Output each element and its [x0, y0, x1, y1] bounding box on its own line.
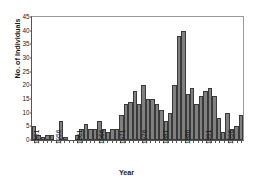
x-axis-tick-mark: [43, 140, 44, 143]
y-axis-tick-mark: [30, 126, 33, 127]
x-axis-tick-mark: [51, 140, 52, 143]
x-axis-tick-mark: [168, 140, 169, 143]
y-axis-tick-mark: [30, 140, 33, 141]
plot-area: 0510152025303540451951195619611966197119…: [31, 16, 244, 141]
x-axis-tick-mark: [237, 140, 238, 143]
x-axis-tick-mark: [86, 140, 87, 143]
x-axis-tick-mark: [90, 140, 91, 143]
y-axis-tick-label: 35: [22, 41, 29, 47]
x-axis-tick-mark: [241, 140, 242, 143]
x-axis-tick-mark: [146, 140, 147, 143]
x-axis-tick-mark: [69, 140, 70, 143]
y-axis-tick-label: 25: [22, 68, 29, 74]
x-axis-tick-mark: [112, 140, 113, 143]
bar: [239, 115, 243, 140]
x-axis-tick-mark: [82, 140, 83, 143]
x-axis-tick-mark: [219, 140, 220, 143]
y-axis-title: No. of Individuals: [13, 4, 22, 94]
x-axis-tick-mark: [198, 140, 199, 143]
x-axis-tick-mark: [73, 140, 74, 143]
y-axis-tick-mark: [30, 71, 33, 72]
x-axis-tick-mark: [181, 140, 182, 143]
y-axis-tick-mark: [30, 112, 33, 113]
x-axis-tick-mark: [47, 140, 48, 143]
y-axis-tick-label: 30: [22, 55, 29, 61]
y-axis-tick-mark: [30, 30, 33, 31]
x-axis-tick-label: 1991: [206, 130, 212, 144]
x-axis-tick-label: 1961: [77, 130, 83, 144]
x-axis-tick-mark: [94, 140, 95, 143]
x-axis-tick-label: 1966: [99, 130, 105, 144]
x-axis-tick-mark: [60, 140, 61, 143]
x-axis-tick-mark: [202, 140, 203, 143]
y-axis-tick-mark: [30, 17, 33, 18]
x-axis-tick-label: 1951: [34, 130, 40, 144]
x-axis-tick-mark: [150, 140, 151, 143]
x-axis-tick-mark: [159, 140, 160, 143]
x-axis-tick-label: 1976: [142, 130, 148, 144]
x-axis-tick-mark: [64, 140, 65, 143]
x-axis-tick-mark: [133, 140, 134, 143]
x-axis-tick-mark: [211, 140, 212, 143]
x-axis-tick-mark: [116, 140, 117, 143]
x-axis-tick-mark: [38, 140, 39, 143]
x-axis-tick-label: 1986: [185, 130, 191, 144]
x-axis-tick-mark: [172, 140, 173, 143]
x-axis-tick-mark: [193, 140, 194, 143]
x-axis-tick-label: 1956: [56, 130, 62, 144]
x-axis-tick-mark: [138, 140, 139, 143]
x-axis-tick-mark: [155, 140, 156, 143]
x-axis-tick-mark: [107, 140, 108, 143]
histogram-figure: No. of Individuals 051015202530354045195…: [0, 0, 253, 182]
x-axis-title: Year: [0, 168, 253, 177]
x-axis-tick-label: 1981: [163, 130, 169, 144]
x-axis-tick-mark: [215, 140, 216, 143]
y-axis-tick-label: 10: [22, 109, 29, 115]
y-axis-tick-mark: [30, 99, 33, 100]
y-axis-tick-mark: [30, 85, 33, 86]
y-axis-tick-label: 40: [22, 27, 29, 33]
y-axis-tick-mark: [30, 44, 33, 45]
bar-series: [32, 17, 243, 140]
y-axis-tick-label: 45: [22, 14, 29, 20]
y-axis-tick-label: 15: [22, 96, 29, 102]
x-axis-tick-mark: [129, 140, 130, 143]
x-axis-tick-mark: [189, 140, 190, 143]
x-axis-tick-label: 1996: [228, 130, 234, 144]
x-axis-tick-mark: [125, 140, 126, 143]
y-axis-tick-label: 20: [22, 82, 29, 88]
x-axis-tick-mark: [176, 140, 177, 143]
x-axis-tick-mark: [224, 140, 225, 143]
y-axis-tick-mark: [30, 58, 33, 59]
x-axis-tick-mark: [232, 140, 233, 143]
x-axis-tick-mark: [103, 140, 104, 143]
x-axis-tick-label: 1971: [120, 130, 126, 144]
